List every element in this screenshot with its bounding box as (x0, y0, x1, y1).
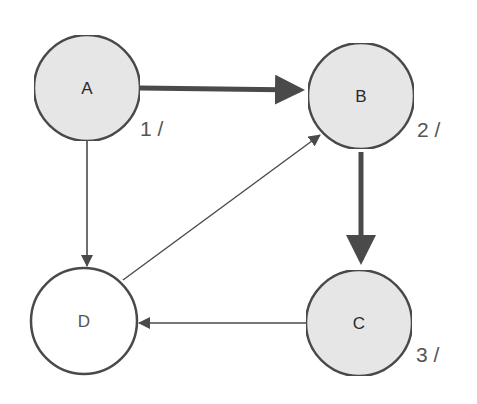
node-a-order-label: 1 / (140, 117, 164, 140)
node-c-label: C (353, 314, 365, 333)
node-b: B 2 / (308, 43, 441, 149)
node-b-label: B (355, 87, 366, 106)
node-c: C 3 / (306, 270, 440, 376)
node-d: D (31, 268, 137, 374)
node-a-label: A (81, 79, 93, 98)
edge-d-to-b (123, 135, 320, 280)
node-d-label: D (78, 312, 90, 331)
node-b-order-label: 2 / (417, 118, 441, 141)
graph-canvas: A 1 / B 2 / C 3 / D (0, 0, 477, 404)
node-c-order-label: 3 / (416, 343, 440, 366)
edge-a-to-b (140, 88, 300, 90)
